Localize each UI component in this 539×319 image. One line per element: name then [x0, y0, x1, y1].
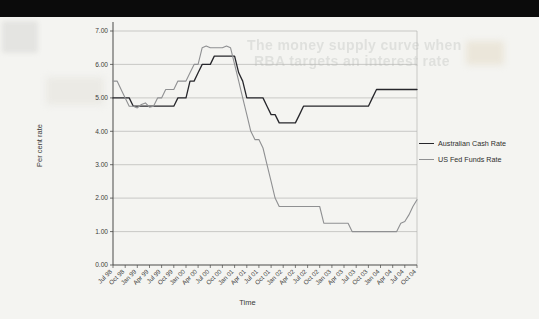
y-axis-title: Per cent rate	[35, 98, 44, 193]
legend-label: US Fed Funds Rate	[438, 155, 502, 164]
australian-cash-rate-line	[113, 56, 417, 123]
y-tick-label: 1.00	[95, 228, 108, 235]
legend-item-australian-cash-rate: Australian Cash Rate	[419, 139, 506, 148]
y-tick-label: 2.00	[95, 194, 108, 201]
chart-legend: Australian Cash Rate US Fed Funds Rate	[419, 139, 506, 171]
legend-item-us-fed-funds-rate: US Fed Funds Rate	[419, 155, 506, 164]
y-tick-label: 6.00	[95, 61, 108, 68]
us-fed-funds-rate-line	[113, 46, 417, 232]
x-axis-title: Time	[210, 298, 285, 307]
y-tick-label: 3.00	[95, 161, 108, 168]
us-fed-funds-rate-line-swatch	[419, 159, 434, 160]
textbook-page: The money supply curve when RBA targets …	[0, 0, 539, 319]
y-tick-label: 7.00	[95, 27, 108, 34]
y-tick-label: 0.00	[95, 261, 108, 268]
australian-cash-rate-line-swatch	[419, 143, 434, 144]
legend-label: Australian Cash Rate	[438, 139, 506, 148]
y-tick-label: 5.00	[95, 94, 108, 101]
y-tick-label: 4.00	[95, 128, 108, 135]
